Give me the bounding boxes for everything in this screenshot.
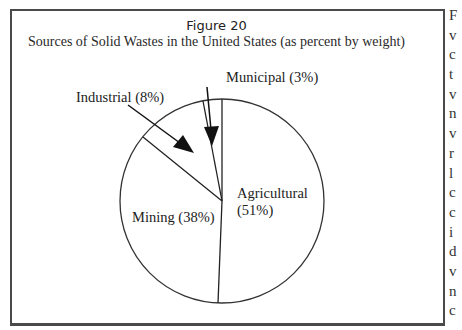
text-fragment: i <box>449 223 462 243</box>
text-fragment: v <box>449 26 462 46</box>
text-fragment: c <box>449 301 462 321</box>
text-fragment: v <box>449 262 462 282</box>
label-municipal: Municipal (3%) <box>226 69 318 86</box>
text-fragment: n <box>449 104 462 124</box>
text-fragment: r <box>449 144 462 164</box>
text-fragment: d <box>449 242 462 262</box>
clipped-body-text: F v c t v n v r l c c i d v n c <box>449 6 462 321</box>
label-mining: Mining (38%) <box>132 209 215 226</box>
label-agricultural-percent: (51%) <box>237 202 273 219</box>
label-industrial: Industrial (8%) <box>76 89 164 106</box>
text-fragment: v <box>449 85 462 105</box>
label-agricultural: Agricultural <box>237 185 308 201</box>
text-fragment: n <box>449 282 462 302</box>
text-fragment: F <box>449 6 462 26</box>
text-fragment: t <box>449 65 462 85</box>
text-fragment: c <box>449 45 462 65</box>
text-fragment: v <box>449 124 462 144</box>
text-fragment: c <box>449 203 462 223</box>
text-fragment: c <box>449 183 462 203</box>
text-fragment: l <box>449 164 462 184</box>
